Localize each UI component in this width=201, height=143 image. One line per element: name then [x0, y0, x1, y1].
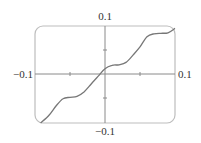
x-max-label: 0.1: [178, 68, 192, 80]
data-curve: [41, 28, 175, 123]
y-max-label: 0.1: [98, 10, 112, 22]
y-min-label: −0.1: [95, 125, 115, 137]
plot: 0.1 −0.1 −0.1 0.1: [0, 0, 201, 143]
x-min-label: −0.1: [13, 68, 33, 80]
